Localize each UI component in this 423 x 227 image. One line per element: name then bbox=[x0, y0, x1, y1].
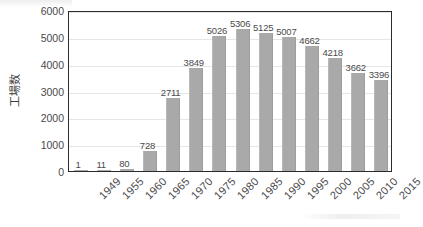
bar-1970 bbox=[166, 98, 180, 171]
x-axis-tick-2015: 2015 bbox=[397, 175, 423, 201]
bar-1960 bbox=[120, 169, 134, 171]
x-axis-tick-1960: 1960 bbox=[142, 175, 168, 201]
bars-layer bbox=[69, 12, 391, 171]
y-axis-tick-3000: 3000 bbox=[22, 86, 64, 98]
value-label-1985: 5306 bbox=[230, 18, 250, 29]
value-label-1970: 2711 bbox=[161, 87, 181, 98]
x-axis-tick-1975: 1975 bbox=[212, 175, 238, 201]
x-axis-tick-1985: 1985 bbox=[258, 175, 284, 201]
value-label-1960: 80 bbox=[119, 158, 129, 169]
bar-1980 bbox=[212, 36, 226, 171]
x-axis-tick-1965: 1965 bbox=[165, 175, 191, 201]
bar-1975 bbox=[189, 68, 203, 171]
x-axis-tick-1995: 1995 bbox=[304, 175, 330, 201]
x-axis-tick-1955: 1955 bbox=[119, 175, 145, 201]
value-label-1990: 5125 bbox=[253, 22, 273, 33]
value-label-1949: 1 bbox=[76, 159, 81, 170]
x-axis-tick-2000: 2000 bbox=[327, 175, 353, 201]
y-axis-tick-labels: 0100020003000400050006000 bbox=[22, 11, 64, 172]
value-label-1980: 5026 bbox=[207, 25, 227, 36]
x-axis-tick-1990: 1990 bbox=[281, 175, 307, 201]
bar-1949 bbox=[74, 170, 88, 171]
bar-1965 bbox=[143, 151, 157, 171]
y-axis-tick-2000: 2000 bbox=[22, 112, 64, 124]
value-label-2015: 3396 bbox=[369, 69, 389, 80]
bar-2000 bbox=[305, 46, 319, 171]
bar-2005 bbox=[328, 58, 342, 171]
y-axis-tick-4000: 4000 bbox=[22, 59, 64, 71]
plot-area bbox=[68, 11, 392, 172]
value-label-1965: 728 bbox=[140, 140, 155, 151]
value-label-2005: 4218 bbox=[322, 47, 342, 58]
bar-2015 bbox=[374, 80, 388, 171]
bar-1995 bbox=[282, 37, 296, 171]
bar-2010 bbox=[351, 73, 365, 171]
y-axis-title: 工場数 bbox=[6, 50, 22, 130]
value-label-2000: 4662 bbox=[299, 35, 319, 46]
x-axis-tick-1970: 1970 bbox=[189, 175, 215, 201]
bar-1990 bbox=[259, 33, 273, 171]
x-axis-tick-2005: 2005 bbox=[351, 175, 377, 201]
value-label-1975: 3849 bbox=[184, 57, 204, 68]
bar-1985 bbox=[236, 29, 250, 171]
y-axis-tick-6000: 6000 bbox=[22, 5, 64, 17]
value-label-1955: 11 bbox=[96, 159, 105, 170]
x-axis-tick-1980: 1980 bbox=[235, 175, 261, 201]
x-axis-tick-2010: 2010 bbox=[374, 175, 400, 201]
bar-1955 bbox=[97, 170, 111, 171]
y-axis-tick-5000: 5000 bbox=[22, 32, 64, 44]
value-label-1995: 5007 bbox=[276, 26, 296, 37]
x-axis-tick-1949: 1949 bbox=[96, 175, 122, 201]
value-label-2010: 3662 bbox=[346, 62, 366, 73]
y-axis-tick-1000: 1000 bbox=[22, 139, 64, 151]
x-axis-tick-labels: 1949195519601965197019751980198519901995… bbox=[0, 175, 407, 227]
